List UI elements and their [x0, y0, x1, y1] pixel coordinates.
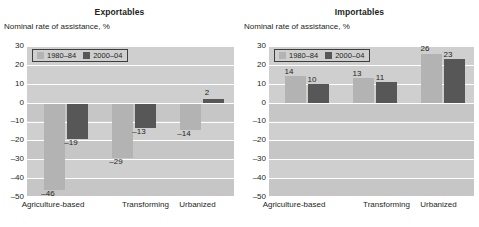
y-tick-30: 30	[257, 42, 266, 50]
panel-title-exportables: Exportables	[0, 7, 239, 17]
y-tick-20: 20	[257, 61, 266, 69]
band-m20-m30	[269, 140, 474, 159]
panel-exportables: Exportables Nominal rate of assistance, …	[0, 0, 239, 227]
figure-two-panel-bar-charts: Exportables Nominal rate of assistance, …	[0, 0, 479, 227]
legend-label-2000-04: 2000–04	[335, 52, 364, 60]
gridline-m30	[269, 159, 474, 160]
x-label-exportables-urbanized: Urbanized	[152, 200, 243, 209]
legend-swatch-icon-1980-84	[37, 52, 44, 59]
y-tick-m20: –20	[253, 136, 266, 144]
value-label-importables-transforming-2000-04: 11	[360, 74, 400, 82]
legend-item-2000-04: 2000–04	[83, 52, 122, 60]
y-tick-0: 0	[262, 99, 266, 107]
legend-exportables[interactable]: 1980–84 2000–04	[32, 49, 128, 62]
gridline-m10	[269, 122, 474, 123]
value-label-exportables-urbanized-2000-04: 2	[187, 89, 227, 97]
band-0-m10	[269, 103, 474, 122]
y-tick-m20: –20	[11, 136, 24, 144]
gridline-30	[27, 46, 234, 47]
gridline-20	[27, 65, 234, 66]
bar-importables-transforming-2000-04[interactable]	[376, 82, 397, 103]
bar-importables-agriculture-based-2000-04[interactable]	[308, 84, 329, 103]
y-tick-m30: –30	[253, 155, 266, 163]
legend-importables[interactable]: 1980–84 2000–04	[274, 49, 370, 62]
y-axis-tick-labels-importables: 30 20 10 0 –10 –20 –30 –40 –50	[240, 46, 266, 197]
x-label-importables-urbanized: Urbanized	[393, 200, 479, 209]
legend-swatch-icon-1980-84	[279, 52, 286, 59]
bar-importables-urbanized-2000-04[interactable]	[444, 59, 465, 102]
value-label-importables-urbanized-2000-04: 23	[428, 51, 468, 59]
legend-swatch-icon-2000-04	[83, 52, 90, 59]
gridline-m20	[269, 140, 474, 141]
gridline-zero	[269, 103, 474, 104]
bar-exportables-urbanized-1980-84[interactable]	[180, 104, 201, 130]
y-tick-m10: –10	[11, 117, 24, 125]
y-tick-m40: –40	[253, 174, 266, 182]
y-tick-10: 10	[15, 80, 24, 88]
y-tick-m40: –40	[11, 174, 24, 182]
gridline-m50	[269, 196, 474, 197]
value-label-exportables-agriculture-based-2000-04: –19	[51, 139, 91, 147]
value-label-exportables-transforming-1980-84: –29	[96, 158, 136, 166]
value-label-importables-agriculture-based-2000-04: 10	[292, 76, 332, 84]
plot-area-exportables	[27, 46, 234, 197]
bar-exportables-agriculture-based-2000-04[interactable]	[67, 104, 88, 140]
band-m40-m50	[269, 178, 474, 197]
y-tick-10: 10	[257, 80, 266, 88]
panel-importables: Importables Nominal rate of assistance, …	[240, 0, 479, 227]
panel-title-importables: Importables	[240, 7, 479, 17]
y-axis-tick-labels-exportables: 30 20 10 0 –10 –20 –30 –40 –50	[0, 46, 24, 197]
legend-swatch-icon-2000-04	[325, 52, 332, 59]
legend-item-2000-04: 2000–04	[325, 52, 364, 60]
y-axis-caption-importables: Nominal rate of assistance, %	[244, 22, 350, 32]
value-label-importables-agriculture-based-1980-84: 14	[269, 68, 309, 76]
value-label-exportables-agriculture-based-1980-84: –46	[28, 190, 68, 198]
y-tick-0: 0	[20, 99, 24, 107]
legend-label-2000-04: 2000–04	[93, 52, 122, 60]
legend-item-1980-84: 1980–84	[37, 52, 76, 60]
y-tick-m30: –30	[11, 155, 24, 163]
legend-label-1980-84: 1980–84	[289, 52, 318, 60]
value-label-exportables-transforming-2000-04: –13	[119, 128, 159, 136]
y-tick-m10: –10	[253, 117, 266, 125]
y-tick-20: 20	[15, 61, 24, 69]
gridline-m40	[269, 178, 474, 179]
value-label-exportables-urbanized-1980-84: –14	[164, 130, 204, 138]
gridline-10	[27, 84, 234, 85]
bar-importables-urbanized-1980-84[interactable]	[421, 54, 442, 103]
bar-exportables-transforming-2000-04[interactable]	[135, 104, 156, 129]
y-tick-30: 30	[15, 42, 24, 50]
legend-item-1980-84: 1980–84	[279, 52, 318, 60]
bar-exportables-urbanized-2000-04[interactable]	[203, 99, 224, 103]
y-axis-caption-exportables: Nominal rate of assistance, %	[4, 22, 110, 32]
legend-label-1980-84: 1980–84	[47, 52, 76, 60]
